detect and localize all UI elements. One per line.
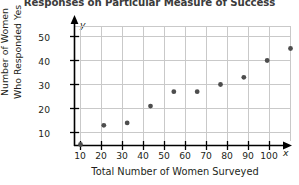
data-point — [78, 142, 83, 147]
data-point — [288, 46, 293, 51]
data-point — [148, 104, 153, 109]
data-point — [195, 89, 200, 94]
plot-area — [0, 0, 299, 185]
data-point — [265, 58, 270, 63]
y-axis — [71, 15, 79, 146]
data-point — [101, 123, 106, 128]
data-point — [171, 89, 176, 94]
grid-lines-horizontal — [74, 27, 291, 133]
data-point — [241, 75, 246, 80]
data-point — [125, 121, 130, 126]
x-axis — [74, 142, 292, 150]
grid-lines-vertical — [81, 26, 291, 141]
data-point — [218, 82, 223, 87]
scatter-plot-figure: Responses on Particular Measure of Succe… — [0, 0, 299, 185]
